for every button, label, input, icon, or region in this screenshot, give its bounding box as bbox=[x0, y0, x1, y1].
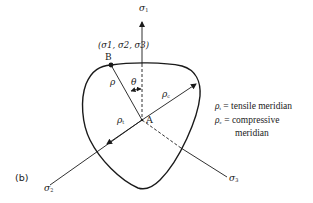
legend-tensile-meridian: ρt = tensile meridian bbox=[215, 101, 292, 115]
point-a-marker bbox=[141, 119, 143, 121]
point-b-coords-label: (σ1, σ2, σ3) bbox=[98, 41, 149, 50]
panel-label: (b) bbox=[15, 173, 28, 183]
point-a-label: A bbox=[146, 115, 153, 125]
point-b-marker bbox=[109, 63, 114, 68]
failure-surface-diagram: σ1 σ2 σ3 (σ1, σ2, σ3) B A ρ θ ρc ρt (b) … bbox=[0, 0, 313, 203]
sigma3-axis bbox=[181, 148, 227, 177]
rho-t-arrow bbox=[107, 120, 142, 144]
rho-label: ρ bbox=[110, 78, 115, 87]
legend: ρt = tensile meridian ρc = compressive m… bbox=[215, 101, 292, 139]
sigma1-label: σ1 bbox=[139, 4, 148, 13]
rho-line bbox=[111, 65, 142, 120]
rho-t-label: ρt bbox=[117, 116, 124, 125]
sigma2-label: σ2 bbox=[44, 184, 53, 193]
legend-compressive-meridian: ρc = compressive bbox=[215, 115, 292, 129]
rho-c-label: ρc bbox=[162, 90, 170, 99]
sigma3-label: σ3 bbox=[229, 174, 238, 183]
legend-compressive-meridian-cont: meridian bbox=[215, 128, 292, 139]
failure-curve bbox=[83, 63, 201, 189]
theta-label: θ bbox=[131, 78, 136, 87]
point-b-label: B bbox=[105, 53, 112, 62]
